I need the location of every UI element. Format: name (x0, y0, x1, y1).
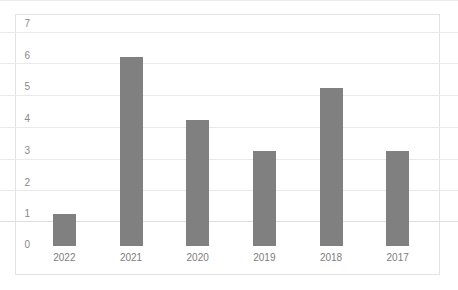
bars-group (31, 24, 431, 246)
bar-2022[interactable] (53, 214, 76, 246)
bar-slot (98, 24, 165, 246)
x-axis-tick-label: 2017 (364, 250, 431, 266)
y-axis: 7 6 5 4 3 2 1 0 (18, 24, 30, 246)
x-axis-tick-label: 2021 (98, 250, 165, 266)
bar-chart: 7 6 5 4 3 2 1 0 202220212020201920182017 (0, 0, 458, 290)
bar-2019[interactable] (253, 151, 276, 246)
x-axis-tick-label: 2020 (164, 250, 231, 266)
bar-slot (364, 24, 431, 246)
bar-2021[interactable] (120, 57, 143, 246)
y-axis-tick-label: 2 (24, 178, 30, 188)
y-axis-tick-label: 3 (24, 146, 30, 156)
x-axis-tick-label: 2018 (298, 250, 365, 266)
gridline-7 (0, 0, 458, 1)
y-axis-tick-label: 7 (24, 19, 30, 29)
y-axis-tick-label: 4 (24, 114, 30, 124)
bar-slot (31, 24, 98, 246)
bar-2018[interactable] (320, 88, 343, 246)
bar-slot (231, 24, 298, 246)
y-axis-tick-label: 5 (24, 82, 30, 92)
y-axis-tick-label: 6 (24, 51, 30, 61)
y-axis-tick-label: 0 (24, 240, 30, 250)
x-axis-tick-label: 2022 (31, 250, 98, 266)
x-axis-tick-label: 2019 (231, 250, 298, 266)
bar-slot (164, 24, 231, 246)
x-axis: 202220212020201920182017 (31, 250, 431, 266)
bar-2020[interactable] (186, 120, 209, 246)
bar-slot (298, 24, 365, 246)
y-axis-tick-label: 1 (24, 209, 30, 219)
bar-2017[interactable] (386, 151, 409, 246)
